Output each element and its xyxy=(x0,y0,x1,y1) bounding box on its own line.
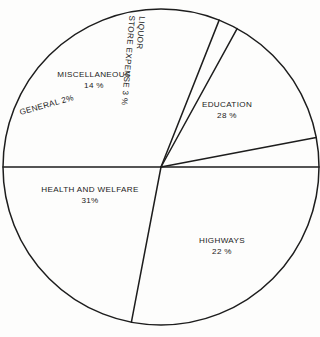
divider-liquor-education xyxy=(161,137,316,167)
slice-label-education-name: EDUCATION xyxy=(186,100,268,111)
pie-chart-svg xyxy=(0,0,320,337)
slice-label-health-and-welfare: HEALTH AND WELFARE 31% xyxy=(28,185,152,206)
divider-miscellaneous-liquor xyxy=(161,29,237,167)
slice-label-education: EDUCATION 28 % xyxy=(186,100,268,121)
slice-label-highways-name: HIGHWAYS xyxy=(181,236,263,247)
slice-label-education-value: 28 % xyxy=(186,111,268,122)
divider-general-miscellaneous xyxy=(161,20,219,167)
slice-label-highways-value: 22 % xyxy=(181,247,263,258)
slice-label-highways: HIGHWAYS 22 % xyxy=(181,236,263,257)
pie-slices-group xyxy=(3,9,319,325)
slice-label-health-and-welfare-value: 31% xyxy=(28,196,152,207)
pie-chart: EDUCATION 28 % HIGHWAYS 22 % HEALTH AND … xyxy=(0,0,320,337)
slice-label-health-and-welfare-name: HEALTH AND WELFARE xyxy=(28,185,152,196)
